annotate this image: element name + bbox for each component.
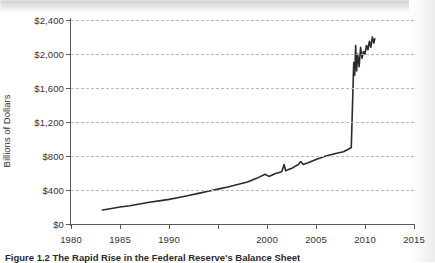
x-axis-tick: [71, 224, 72, 229]
gridline-y: [71, 88, 414, 89]
x-axis-tick: [218, 224, 219, 229]
figure-caption: Figure 1.2 The Rapid Rise in the Federal…: [5, 252, 300, 263]
y-axis-tick: [66, 122, 71, 123]
x-axis-label: 2015: [403, 234, 425, 245]
x-axis-label: 2005: [305, 234, 327, 245]
caption-text: The Rapid Rise in the Federal Reserve's …: [53, 252, 301, 263]
x-axis-label: 1980: [60, 234, 82, 245]
x-axis-label: 2010: [354, 234, 376, 245]
x-axis-tick: [267, 224, 268, 229]
y-axis-tick: [66, 156, 71, 157]
gridline-y: [71, 54, 414, 55]
y-axis-tick: [66, 190, 71, 191]
x-axis-tick: [169, 224, 170, 229]
x-axis-tick: [316, 224, 317, 229]
plot-area: $0$400$800$1,200$1,600$2,000$2,400 19801…: [71, 20, 414, 224]
gridline-y: [71, 122, 414, 123]
y-axis-label: $2,000: [34, 49, 64, 60]
x-axis-label: 1985: [109, 234, 131, 245]
y-axis-tick: [66, 20, 71, 21]
x-axis-line: [70, 224, 415, 225]
gridline-y: [71, 156, 414, 157]
y-axis-label: $2,400: [34, 15, 64, 26]
y-axis-title: Billions of Dollars: [1, 95, 12, 168]
gridline-y: [71, 190, 414, 191]
y-axis-label: $1,200: [34, 117, 64, 128]
y-axis-label: $400: [42, 185, 64, 196]
y-axis-label: $800: [42, 151, 64, 162]
gridline-y: [71, 20, 414, 21]
caption-number: Figure 1.2: [5, 252, 50, 263]
y-axis-label: $0: [53, 219, 64, 230]
x-axis-tick: [120, 224, 121, 229]
y-axis-tick: [66, 88, 71, 89]
y-axis-tick: [66, 54, 71, 55]
y-axis-label: $1,600: [34, 83, 64, 94]
x-axis-label: 1990: [158, 234, 180, 245]
x-axis-tick: [365, 224, 366, 229]
x-axis-label: 2000: [256, 234, 278, 245]
x-axis-tick: [414, 224, 415, 229]
